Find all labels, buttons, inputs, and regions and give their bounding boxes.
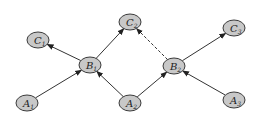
edge-b2-to-c3 (182, 33, 225, 60)
node-c1: C1 (27, 32, 49, 48)
edge-a1-to-b1 (35, 70, 81, 98)
edge-a3-to-b2 (183, 71, 226, 95)
edge-b1-to-c1 (47, 44, 81, 60)
node-a1: A1 (16, 95, 38, 111)
node-a2: A2 (119, 95, 141, 111)
node-c2: C2 (119, 14, 141, 30)
node-b1: B1 (79, 57, 101, 73)
edge-b1-to-c2 (96, 29, 124, 59)
edge-a2-to-b1 (97, 71, 124, 96)
node-c3: C3 (223, 20, 245, 36)
nodes-layer: C1C2C3B1B2A1A2A3 (16, 14, 245, 111)
edge-a2-to-b2 (137, 72, 167, 97)
node-b2: B2 (163, 58, 185, 74)
edges-layer (35, 28, 225, 97)
node-a3: A3 (223, 92, 245, 108)
edge-b2-to-c2 (136, 28, 167, 59)
directed-graph: C1C2C3B1B2A1A2A3 (0, 0, 259, 125)
